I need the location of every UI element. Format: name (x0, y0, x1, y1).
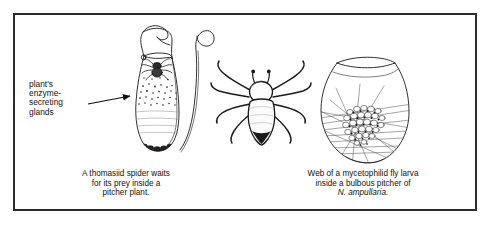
caption-line: for its prey inside a (78, 179, 174, 189)
enzyme-glands-label: plant's enzyme- secreting glands (29, 80, 91, 117)
caption-line: A thomasiid spider waits (78, 169, 174, 179)
figure-root: plant's enzyme- secreting glands A thoma… (0, 0, 491, 229)
caption-line: inside a bulbous pitcher of (296, 179, 430, 189)
caption-line: Web of a mycetophilid fly larva (296, 169, 430, 179)
caption-pitcher-spider: A thomasiid spider waits for its prey in… (78, 169, 174, 198)
caption-bulbous-pitcher-web: Web of a mycetophilid fly larva inside a… (296, 169, 430, 198)
caption-line: pitcher plant. (78, 188, 174, 198)
caption-scientific-name: N. ampullaria. (296, 188, 430, 198)
